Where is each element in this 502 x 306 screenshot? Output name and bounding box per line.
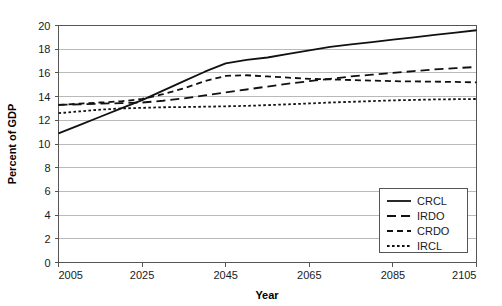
y-tick-label: 12 bbox=[38, 114, 50, 126]
legend-label-crdo[interactable]: CRDO bbox=[417, 225, 450, 237]
y-tick-label: 10 bbox=[38, 138, 50, 150]
chart-legend[interactable]: CRCLIRDOCRDOIRCL bbox=[380, 189, 468, 253]
y-axis-title: Percent of GDP bbox=[6, 104, 18, 185]
line-chart: 02468101214161820 2005202520452065208521… bbox=[0, 0, 502, 306]
x-tick-label: 2085 bbox=[381, 269, 405, 281]
legend-label-crcl[interactable]: CRCL bbox=[417, 195, 447, 207]
x-tick-label: 2065 bbox=[297, 269, 321, 281]
x-tick-label: 2045 bbox=[213, 269, 237, 281]
chart-container: 02468101214161820 2005202520452065208521… bbox=[0, 0, 502, 306]
y-tick-label: 18 bbox=[38, 43, 50, 55]
y-tick-label: 14 bbox=[38, 91, 50, 103]
y-tick-label: 6 bbox=[44, 185, 50, 197]
y-tick-label: 8 bbox=[44, 162, 50, 174]
chart-background bbox=[0, 0, 502, 306]
x-tick-label: 2005 bbox=[59, 269, 83, 281]
y-tick-label: 4 bbox=[44, 209, 50, 221]
y-tick-label: 16 bbox=[38, 67, 50, 79]
x-axis-title: Year bbox=[255, 289, 279, 301]
y-tick-label: 2 bbox=[44, 233, 50, 245]
legend-label-ircl[interactable]: IRCL bbox=[417, 240, 442, 252]
y-tick-label: 20 bbox=[38, 20, 50, 32]
legend-label-irdo[interactable]: IRDO bbox=[417, 210, 445, 222]
x-tick-label: 2105 bbox=[452, 269, 476, 281]
y-tick-label: 0 bbox=[44, 257, 50, 269]
x-tick-label: 2025 bbox=[130, 269, 154, 281]
